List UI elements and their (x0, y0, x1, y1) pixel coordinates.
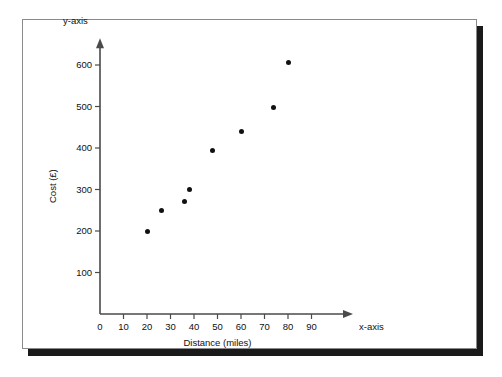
x-tick-label: 10 (112, 322, 136, 332)
data-point (239, 129, 244, 134)
x-axis-title: Distance (miles) (100, 338, 335, 348)
data-point (159, 208, 164, 213)
y-tick-label: 600 (66, 60, 92, 70)
y-tick-label: 200 (66, 226, 92, 236)
x-tick-label: 50 (206, 322, 230, 332)
x-tick-label: 20 (135, 322, 159, 332)
y-axis-title: Cost (£) (48, 169, 58, 203)
x-tick-label: 0 (88, 322, 112, 332)
x-tick-label: 30 (159, 322, 183, 332)
x-axis-name-label: x-axis (359, 322, 384, 332)
data-point (187, 187, 192, 192)
x-tick-label: 40 (182, 322, 206, 332)
data-point (145, 229, 150, 234)
chart-panel: y-axis x-axis Distance (miles) Cost (£) … (22, 19, 477, 349)
x-tick-label: 90 (300, 322, 324, 332)
y-tick-label: 100 (66, 268, 92, 278)
y-axis-name-label: y-axis (63, 16, 88, 26)
x-tick-label: 70 (253, 322, 277, 332)
y-tick-label: 400 (66, 143, 92, 153)
scatter-plot-area: y-axis x-axis Distance (miles) Cost (£) … (23, 20, 478, 350)
y-tick-label: 300 (66, 185, 92, 195)
chart-page: y-axis x-axis Distance (miles) Cost (£) … (0, 0, 502, 377)
x-tick-label: 80 (276, 322, 300, 332)
x-tick-label: 60 (229, 322, 253, 332)
data-point (182, 199, 187, 204)
y-tick-label: 500 (66, 102, 92, 112)
